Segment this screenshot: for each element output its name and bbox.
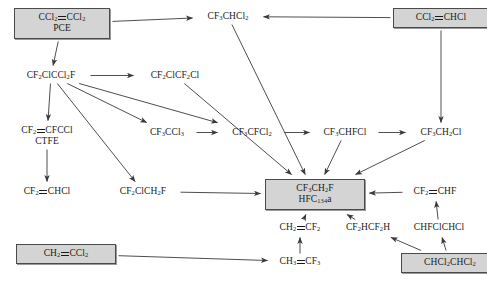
node-cf3ch2cl: CF3CH2Cl [410, 127, 472, 138]
node-label-primary: CCl2CCl2 [39, 12, 86, 22]
node-ctfe: CF2CFCClCTFE [12, 125, 82, 147]
node-label-primary: CF2CHCl [24, 186, 71, 196]
node-label-primary: CF2ClCCl2F [27, 70, 76, 80]
node-cf2chf: CF2CHF [405, 186, 465, 197]
edge-cf3chcl2-to-hfc134a [232, 25, 305, 175]
edge-pce-to-cf2clccl2f [53, 42, 58, 66]
edge-ch2cf2-to-hfc134a [304, 215, 306, 220]
node-label-secondary: HFC134a [273, 194, 357, 205]
node-cf3chcl2: CF3CHCl2 [197, 11, 259, 22]
edge-cf2clccl2f-to-ctfe [48, 84, 51, 121]
node-label-primary: CF2HCF2H [346, 222, 390, 232]
node-label-primary: CF3CH2Cl [420, 127, 461, 137]
node-chfclchcl: CHFClCHCl [404, 222, 474, 233]
double-bond-glyph [58, 17, 66, 18]
node-label-secondary: CTFE [12, 136, 82, 147]
node-label-primary: CF3CCl3 [150, 127, 184, 137]
node-cf2chcl: CF2CHCl [16, 186, 78, 197]
node-label-primary: CF2ClCF2Cl [151, 70, 200, 80]
reaction-diagram: CCl2CCl2PCECF3CHCl2CCl2CHClCF2ClCCl2FCF2… [0, 0, 487, 286]
node-ch3cf3: CH3CF3 [272, 256, 328, 267]
edge-cf2clccl2f-to-cf3ccl3 [67, 84, 146, 123]
node-label-primary: CF2CFCCl [21, 125, 73, 135]
edge-cf3chfcl-to-hfc134a [325, 141, 341, 175]
edge-pce-to-cf3chcl2 [113, 18, 193, 21]
edge-chcl2chcl2-to-cf2hcf2h [391, 238, 421, 251]
node-cf3chfcl: CF3CHFCl [314, 127, 376, 138]
double-bond-glyph [61, 253, 69, 254]
edge-chcl2chcl2-to-chfclchcl [442, 238, 446, 251]
node-cf3ccl3: CF3CCl3 [140, 127, 194, 138]
node-label-primary: CF3CH2F [296, 183, 333, 193]
node-cf2hcf2h: CF2HCF2H [337, 222, 399, 233]
node-cf3cfcl2: CF3CFCl2 [222, 127, 282, 138]
node-pce: CCl2CCl2PCE [14, 8, 110, 39]
node-label-primary: CF3CHFCl [323, 127, 366, 137]
node-ch2ccl2: CH2CCl2 [16, 244, 116, 264]
node-label-primary: CF2ClCH2F [120, 186, 166, 196]
node-hfc134a: CF3CH2FHFC134a [265, 179, 365, 210]
node-label-primary: CF3CHCl2 [207, 11, 248, 21]
double-bond-glyph [39, 191, 47, 192]
node-label-primary: CHCl2CHCl2 [424, 257, 476, 267]
double-bond-glyph [435, 17, 443, 18]
node-label-primary: CH2CF2 [280, 222, 321, 232]
node-cf2clcf2cl: CF2ClCF2Cl [138, 70, 212, 81]
node-cf2clch2f: CF2ClCH2F [108, 186, 178, 197]
double-bond-glyph [37, 130, 45, 131]
node-label-secondary: PCE [22, 23, 102, 34]
node-label-primary: CHFClCHCl [414, 222, 465, 232]
node-ccl2chcl: CCl2CHCl [393, 8, 487, 28]
node-ch2cf2: CH2CF2 [270, 222, 330, 233]
edge-chfclchcl-to-cf2chf [436, 202, 438, 220]
edge-cf2hcf2h-to-hfc134a [347, 215, 355, 220]
double-bond-glyph [297, 261, 305, 262]
node-label-primary: CF2CHF [414, 186, 457, 196]
node-cf2clccl2f: CF2ClCCl2F [14, 70, 88, 81]
edge-ccl2chcl-to-cf3chcl2 [264, 17, 391, 18]
node-chcl2chcl2: CHCl2CHCl2 [401, 253, 487, 273]
edge-cf2clch2f-to-hfc134a [181, 192, 261, 193]
edge-cf3ch2cl-to-hfc134a [356, 141, 425, 175]
edge-cf2clccl2f-to-cf3cfcl2 [79, 84, 217, 123]
double-bond-glyph [297, 227, 305, 228]
edge-cf2chf-to-hfc134a [370, 192, 403, 193]
double-bond-glyph [429, 191, 437, 192]
node-label-primary: CCl2CHCl [416, 12, 467, 22]
edge-ch2ccl2-to-ch3cf3 [119, 256, 268, 261]
node-label-primary: CH2CCl2 [44, 248, 89, 258]
node-label-primary: CH3CF3 [280, 256, 321, 266]
node-label-primary: CF3CFCl2 [232, 127, 271, 137]
